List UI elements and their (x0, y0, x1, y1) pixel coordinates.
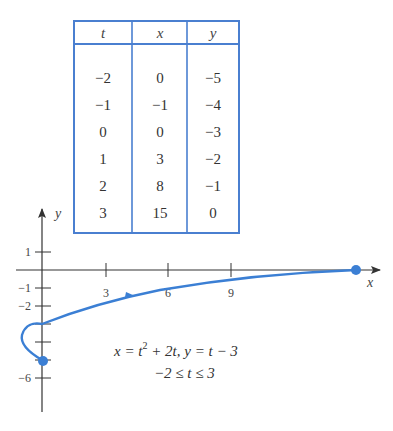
table-cell: 2 (99, 178, 107, 194)
table-cell: −3 (205, 124, 221, 140)
table-cell: 3 (99, 205, 107, 221)
table-cell: −1 (205, 178, 221, 194)
values-table: t x y −2 0 −5 −1 −1 −4 0 0 −3 1 3 −2 2 8… (74, 21, 239, 233)
table-cell: −2 (205, 151, 221, 167)
x-axis-label: x (366, 275, 374, 290)
table-header-x: x (156, 25, 164, 41)
table-cell: 0 (99, 124, 107, 140)
table-header-y: y (208, 25, 217, 41)
equation-label: x = t2 + 2t, y = t − 3 −2 ≤ t ≤ 3 (113, 340, 238, 381)
table-cell: 1 (99, 151, 107, 167)
y-tick-label: 1 (25, 245, 31, 259)
table-cell: 0 (156, 70, 164, 86)
parametric-figure: t x y −2 0 −5 −1 −1 −4 0 0 −3 1 3 −2 2 8… (0, 0, 393, 431)
table-cell: −5 (205, 70, 221, 86)
x-tick-label: 9 (228, 286, 234, 300)
equation-part: x = t (113, 343, 143, 359)
table-cell: −2 (95, 70, 111, 86)
equation-line-1: x = t2 + 2t, y = t − 3 (113, 340, 238, 359)
equation-part: + 2t, y = t − 3 (147, 343, 237, 359)
y-tick-label: −1 (18, 281, 31, 295)
y-axis-label: y (53, 206, 62, 221)
table-cell: −1 (152, 97, 168, 113)
equation-line-2: −2 ≤ t ≤ 3 (154, 365, 215, 381)
table-cell: 0 (209, 205, 217, 221)
start-point (38, 356, 48, 366)
table-cell: −4 (205, 97, 221, 113)
end-point (351, 265, 361, 275)
table-cell: 0 (156, 124, 164, 140)
x-tick-label: 3 (103, 286, 109, 300)
axes: y x 3 6 9 1 −1 −2 −6 (16, 206, 380, 412)
table-cell: 15 (153, 205, 168, 221)
y-tick-label: −6 (18, 371, 31, 385)
table-cell: −1 (95, 97, 111, 113)
table-cell: 8 (156, 178, 164, 194)
table-cell: 3 (156, 151, 164, 167)
y-tick-label: −2 (18, 299, 31, 313)
